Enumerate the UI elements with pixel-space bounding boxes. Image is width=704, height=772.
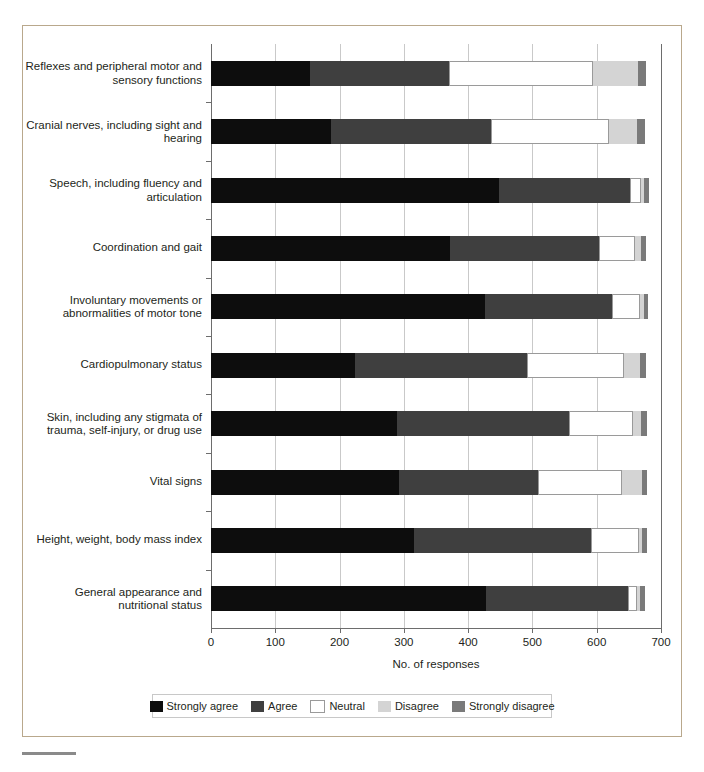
- category-label: Height, weight, body mass index: [24, 534, 202, 548]
- bar-segment: [599, 236, 635, 261]
- bar-segment: [633, 411, 641, 436]
- legend-swatch-icon: [251, 701, 264, 712]
- bar-row: Coordination and gait: [211, 236, 661, 261]
- legend-item[interactable]: Neutral: [310, 700, 364, 713]
- bar-segment: [641, 236, 646, 261]
- bar-row: Cranial nerves, including sight and hear…: [211, 119, 661, 144]
- y-tick: [206, 219, 211, 220]
- bar-segment: [640, 586, 645, 611]
- x-axis-line: [211, 628, 661, 629]
- x-tick: [532, 628, 533, 633]
- bar-segment: [449, 61, 593, 86]
- bar-segment: [640, 353, 646, 378]
- bar-segment: [641, 411, 647, 436]
- stacked-bar-chart: 0100200300400500600700 Reflexes and peri…: [23, 26, 683, 738]
- category-label: Coordination and gait: [24, 242, 202, 256]
- bar-row: Reflexes and peripheral motor and sensor…: [211, 61, 661, 86]
- bar-row: General appearance and nutritional statu…: [211, 586, 661, 611]
- bar-row: Involuntary movements or abnormalities o…: [211, 294, 661, 319]
- category-label: Cranial nerves, including sight and hear…: [24, 118, 202, 145]
- bar-segment: [642, 528, 647, 553]
- bar-segment: [638, 61, 646, 86]
- bar-segment: [538, 470, 623, 495]
- bar-segment: [211, 411, 397, 436]
- bar-segment: [527, 353, 624, 378]
- figure-frame: 0100200300400500600700 Reflexes and peri…: [22, 25, 682, 737]
- bar-segment: [630, 178, 641, 203]
- legend-swatch-icon: [150, 701, 163, 712]
- footer-rule: [22, 752, 76, 755]
- bar-row: Skin, including any stigmata of trauma, …: [211, 411, 661, 436]
- legend-item[interactable]: Disagree: [378, 700, 439, 712]
- bar-segment: [609, 119, 637, 144]
- bar-segment: [499, 178, 630, 203]
- category-label: Involuntary movements or abnormalities o…: [24, 293, 202, 320]
- bar-segment: [569, 411, 633, 436]
- x-tick-label: 500: [523, 636, 542, 648]
- bar-segment: [211, 119, 331, 144]
- legend-swatch-icon: [452, 701, 465, 712]
- y-tick: [206, 511, 211, 512]
- bar-segment: [644, 294, 649, 319]
- bar-segment: [211, 528, 414, 553]
- bar-row: Cardiopulmonary status: [211, 353, 661, 378]
- x-tick: [661, 628, 662, 633]
- x-tick: [404, 628, 405, 633]
- bar-segment: [397, 411, 569, 436]
- bar-segment: [628, 586, 638, 611]
- x-tick-label: 0: [208, 636, 214, 648]
- bar-segment: [644, 178, 649, 203]
- bar-segment: [491, 119, 609, 144]
- legend-swatch-icon: [310, 700, 325, 713]
- y-tick: [206, 278, 211, 279]
- legend-item[interactable]: Agree: [251, 700, 297, 712]
- category-label: Vital signs: [24, 475, 202, 489]
- legend-item[interactable]: Strongly disagree: [452, 700, 555, 712]
- x-tick: [275, 628, 276, 633]
- bar-segment: [399, 470, 538, 495]
- bar-segment: [310, 61, 449, 86]
- legend-item[interactable]: Strongly agree: [150, 700, 239, 712]
- y-tick: [206, 102, 211, 103]
- bar-segment: [637, 119, 645, 144]
- bar-segment: [211, 236, 450, 261]
- bar-segment: [211, 294, 485, 319]
- bar-segment: [211, 586, 486, 611]
- y-tick: [206, 570, 211, 571]
- y-tick: [206, 336, 211, 337]
- bar-row: Speech, including fluency and articulati…: [211, 178, 661, 203]
- bar-segment: [612, 294, 640, 319]
- category-label: General appearance and nutritional statu…: [24, 585, 202, 612]
- bar-segment: [593, 61, 638, 86]
- legend-label: Strongly agree: [167, 700, 239, 712]
- x-tick-label: 100: [266, 636, 285, 648]
- x-tick-label: 400: [459, 636, 478, 648]
- bar-segment: [211, 61, 310, 86]
- y-tick: [206, 394, 211, 395]
- legend-label: Neutral: [329, 700, 364, 712]
- category-label: Skin, including any stigmata of trauma, …: [24, 410, 202, 437]
- x-axis-title: No. of responses: [211, 658, 661, 670]
- plot-area: 0100200300400500600700 Reflexes and peri…: [211, 44, 661, 628]
- legend-label: Agree: [268, 700, 297, 712]
- plot-right-border: [661, 44, 662, 628]
- legend-label: Strongly disagree: [469, 700, 555, 712]
- x-tick: [597, 628, 598, 633]
- x-tick-label: 200: [330, 636, 349, 648]
- bar-row: Vital signs: [211, 470, 661, 495]
- category-label: Reflexes and peripheral motor and sensor…: [24, 60, 202, 87]
- bar-segment: [211, 178, 499, 203]
- y-tick: [206, 453, 211, 454]
- bar-segment: [211, 470, 399, 495]
- bar-segment: [355, 353, 527, 378]
- bar-row: Height, weight, body mass index: [211, 528, 661, 553]
- bar-segment: [622, 470, 641, 495]
- x-tick: [340, 628, 341, 633]
- legend-label: Disagree: [395, 700, 439, 712]
- chart-legend: Strongly agreeAgreeNeutralDisagreeStrong…: [152, 694, 552, 718]
- bar-segment: [211, 353, 355, 378]
- x-tick-label: 700: [651, 636, 670, 648]
- bar-segment: [485, 294, 612, 319]
- y-tick: [206, 161, 211, 162]
- x-tick-label: 300: [394, 636, 413, 648]
